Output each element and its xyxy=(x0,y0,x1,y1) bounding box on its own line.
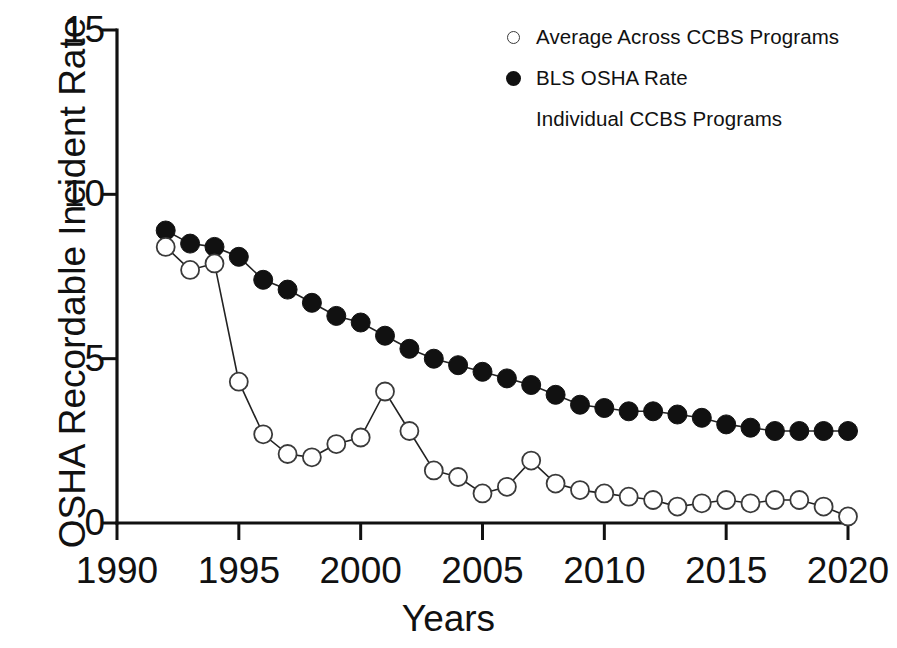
data-point xyxy=(790,491,808,509)
data-point xyxy=(474,484,492,502)
data-point xyxy=(571,395,590,414)
legend-label: Individual CCBS Programs xyxy=(536,107,782,131)
data-point xyxy=(157,238,175,256)
legend-marker xyxy=(490,112,536,127)
legend-item: Average Across CCBS Programs xyxy=(490,22,839,52)
data-point xyxy=(497,369,516,388)
series-line-0 xyxy=(166,231,848,432)
data-point xyxy=(766,491,784,509)
legend-item: BLS OSHA Rate xyxy=(490,63,688,93)
data-point xyxy=(522,452,540,470)
data-point xyxy=(376,326,395,345)
data-point xyxy=(376,383,394,401)
data-point xyxy=(742,494,760,512)
data-point xyxy=(741,418,760,437)
data-point xyxy=(546,385,565,404)
data-point xyxy=(815,498,833,516)
legend-filled-circle-icon xyxy=(506,71,521,86)
y-tick-label: 5 xyxy=(25,338,105,380)
data-point xyxy=(278,280,297,299)
data-point xyxy=(547,475,565,493)
data-point xyxy=(327,306,346,325)
x-tick-label: 1990 xyxy=(76,550,158,592)
data-point xyxy=(765,422,784,441)
legend-marker xyxy=(490,71,536,86)
data-point xyxy=(839,422,858,441)
data-point xyxy=(303,448,321,466)
data-point xyxy=(425,461,443,479)
data-point xyxy=(449,356,468,375)
data-point xyxy=(400,339,419,358)
data-point xyxy=(717,415,736,434)
data-point xyxy=(644,491,662,509)
data-point xyxy=(595,484,613,502)
data-point xyxy=(206,254,224,272)
x-tick-label: 1995 xyxy=(198,550,280,592)
legend-label: Average Across CCBS Programs xyxy=(536,25,839,49)
legend-label: BLS OSHA Rate xyxy=(536,66,688,90)
legend-no-marker-icon xyxy=(506,112,521,127)
data-point xyxy=(814,422,833,441)
data-point xyxy=(254,270,273,289)
x-tick-label: 2010 xyxy=(563,550,645,592)
y-tick-label: 10 xyxy=(25,173,105,215)
legend-open-circle-icon xyxy=(507,31,520,44)
x-axis-title: Years xyxy=(0,598,897,640)
y-tick-label: 0 xyxy=(25,502,105,544)
data-point xyxy=(571,481,589,499)
data-point xyxy=(449,468,467,486)
data-point xyxy=(400,422,418,440)
x-tick-label: 2015 xyxy=(685,550,767,592)
legend-marker xyxy=(490,31,536,44)
data-point xyxy=(279,445,297,463)
data-point xyxy=(790,422,809,441)
data-point xyxy=(717,491,735,509)
data-point xyxy=(302,293,321,312)
x-tick-label: 2005 xyxy=(441,550,523,592)
data-point xyxy=(327,435,345,453)
data-point xyxy=(229,247,248,266)
y-axis-title: OSHA Recordable Incident Rate xyxy=(52,3,94,563)
data-point xyxy=(619,402,638,421)
data-point xyxy=(620,488,638,506)
data-point xyxy=(522,376,541,395)
data-point xyxy=(595,399,614,418)
data-point xyxy=(473,362,492,381)
data-point xyxy=(424,349,443,368)
y-tick-label: 15 xyxy=(25,9,105,51)
chart-figure: OSHA Recordable Incident Rate Years 1990… xyxy=(0,0,897,648)
data-point xyxy=(498,478,516,496)
legend-item: Individual CCBS Programs xyxy=(490,104,782,134)
data-point xyxy=(351,313,370,332)
data-point xyxy=(668,498,686,516)
data-point xyxy=(644,402,663,421)
data-point xyxy=(254,425,272,443)
data-point xyxy=(352,429,370,447)
data-point xyxy=(839,507,857,525)
x-tick-label: 2000 xyxy=(320,550,402,592)
data-point xyxy=(668,405,687,424)
data-point xyxy=(692,408,711,427)
y-axis-title-text: OSHA Recordable Incident Rate xyxy=(52,18,93,549)
data-point xyxy=(693,494,711,512)
data-point xyxy=(181,261,199,279)
data-point xyxy=(230,373,248,391)
x-tick-label: 2020 xyxy=(807,550,889,592)
x-axis-title-text: Years xyxy=(402,598,495,639)
data-point xyxy=(181,234,200,253)
